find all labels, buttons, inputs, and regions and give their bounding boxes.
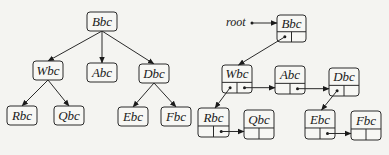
tree-node-rbc: Rbc bbox=[7, 106, 37, 125]
node-label: Bbc bbox=[92, 14, 112, 29]
cs-node-abc: Abc bbox=[275, 66, 305, 94]
node-label: Abc bbox=[91, 65, 112, 80]
edge-wbc-to-rbc bbox=[22, 80, 48, 106]
cs-node-wbc: Wbc bbox=[222, 65, 252, 93]
node-label: Rbc bbox=[202, 110, 223, 125]
cs-node-qbc: Qbc bbox=[244, 110, 274, 139]
node-label: Wbc bbox=[36, 63, 59, 78]
node-label: Rbc bbox=[11, 108, 32, 123]
tree-node-bbc: Bbc bbox=[87, 12, 117, 31]
cs-node-bbc: Bbc bbox=[277, 15, 306, 42]
node-label: Ebc bbox=[309, 112, 330, 127]
edge-wbc-to-qbc bbox=[48, 80, 69, 106]
node-label: Fbc bbox=[165, 109, 186, 124]
tree-node-abc: Abc bbox=[87, 63, 117, 82]
cs-node-ebc: Ebc bbox=[305, 110, 335, 139]
edge-bbc-to-wbc bbox=[48, 31, 102, 61]
general-tree: BbcWbcAbcDbcRbcQbcEbcFbc bbox=[7, 12, 191, 126]
node-label: Abc bbox=[279, 67, 300, 82]
cs-node-rbc: Rbc bbox=[198, 108, 229, 137]
diagram-canvas: BbcWbcAbcDbcRbcQbcEbcFbc BbcWbcAbcDbcRbc… bbox=[0, 0, 389, 155]
edge-bbc-to-dbc bbox=[102, 31, 154, 64]
node-label: Bbc bbox=[281, 16, 301, 31]
cs-node-dbc: Dbc bbox=[329, 68, 359, 96]
root-pointer-label: root bbox=[226, 15, 246, 29]
edge-dbc-to-ebc bbox=[133, 83, 154, 107]
node-label: Fbc bbox=[355, 113, 376, 128]
tree-node-qbc: Qbc bbox=[54, 106, 84, 125]
first-child-link-bbc-to-wbc bbox=[239, 37, 285, 65]
tree-node-dbc: Dbc bbox=[139, 64, 169, 83]
tree-node-wbc: Wbc bbox=[33, 61, 63, 80]
node-label: Ebc bbox=[122, 109, 143, 124]
tree-node-ebc: Ebc bbox=[118, 107, 148, 126]
cs-node-fbc: Fbc bbox=[351, 111, 381, 140]
node-label: Qbc bbox=[248, 112, 270, 127]
node-label: Dbc bbox=[332, 69, 355, 84]
child-sibling-tree: BbcWbcAbcDbcRbcQbcEbcFbcroot bbox=[198, 15, 381, 140]
edge-dbc-to-fbc bbox=[154, 83, 176, 107]
node-label: Dbc bbox=[142, 66, 165, 81]
tree-node-fbc: Fbc bbox=[161, 107, 191, 126]
node-label: Qbc bbox=[58, 108, 80, 123]
node-label: Wbc bbox=[225, 66, 248, 81]
tree-diagram: BbcWbcAbcDbcRbcQbcEbcFbc BbcWbcAbcDbcRbc… bbox=[0, 0, 389, 155]
